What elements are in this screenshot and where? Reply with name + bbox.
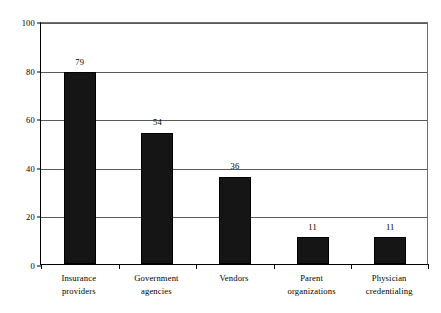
x-axis-label-line-2: providers — [40, 285, 118, 298]
bar-insurance-providers[interactable] — [64, 72, 96, 264]
x-axis-label-vendors: Vendors — [195, 272, 273, 285]
x-axis-label-line-1: Vendors — [195, 272, 273, 285]
x-tick-mark-0 — [41, 264, 42, 269]
x-axis-label-physician-credentialing: Physician credentialing — [350, 272, 428, 297]
bar-government-agencies[interactable] — [141, 133, 173, 264]
bars-layer: 79 54 36 11 11 — [41, 23, 427, 264]
bar-parent-organizations[interactable] — [297, 237, 329, 264]
x-axis-label-insurance-providers: Insurance providers — [40, 272, 118, 297]
x-axis-label-line-2: agencies — [118, 285, 196, 298]
x-axis-label-line-1: Insurance — [40, 272, 118, 285]
bar-slot-physician-credentialing: 11 — [351, 23, 429, 264]
bar-physician-credentialing[interactable] — [374, 237, 406, 264]
bar-slot-insurance-providers: 79 — [41, 23, 119, 264]
bar-slot-government-agencies: 54 — [119, 23, 197, 264]
bar-value-insurance-providers: 79 — [75, 58, 84, 67]
x-tick-mark-3 — [274, 264, 275, 269]
x-axis-label-line-2: organizations — [273, 285, 351, 298]
bar-value-parent-organizations: 11 — [308, 223, 317, 232]
y-axis-label-0: 0 — [31, 262, 35, 271]
bar-chart: 100 80 60 40 20 0 79 54 — [0, 0, 441, 313]
x-tick-mark-4 — [351, 264, 352, 269]
x-axis-label-line-1: Government — [118, 272, 196, 285]
y-axis-label-60: 60 — [26, 116, 35, 125]
plot-area: 100 80 60 40 20 0 79 54 — [40, 22, 428, 265]
y-axis-label-20: 20 — [26, 213, 35, 222]
y-axis-label-80: 80 — [26, 67, 35, 76]
bar-slot-vendors: 36 — [196, 23, 274, 264]
x-tick-mark-5 — [428, 264, 429, 269]
x-axis-label-government-agencies: Government agencies — [118, 272, 196, 297]
x-axis-label-line-2: credentialing — [350, 285, 428, 298]
x-axis-labels: Insurance providers Government agencies … — [40, 272, 428, 308]
x-axis-label-parent-organizations: Parent organizations — [273, 272, 351, 297]
y-axis-label-100: 100 — [22, 19, 35, 28]
y-axis-label-40: 40 — [26, 165, 35, 174]
bar-slot-parent-organizations: 11 — [274, 23, 352, 264]
x-axis-label-line-1: Physician — [350, 272, 428, 285]
x-tick-mark-1 — [119, 264, 120, 269]
bar-value-physician-credentialing: 11 — [386, 223, 395, 232]
bar-value-vendors: 36 — [231, 162, 240, 171]
bar-value-government-agencies: 54 — [153, 118, 162, 127]
x-tick-mark-2 — [196, 264, 197, 269]
bar-vendors[interactable] — [219, 177, 251, 264]
x-axis-label-line-1: Parent — [273, 272, 351, 285]
